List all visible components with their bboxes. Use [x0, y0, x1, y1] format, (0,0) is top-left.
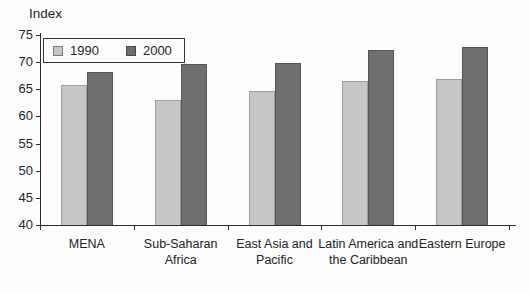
x-category-label: MENA: [35, 236, 139, 252]
y-tick-label-50: 50: [3, 164, 33, 178]
y-tick-label-60: 60: [3, 109, 33, 123]
x-tick-mark: [321, 226, 322, 230]
legend-swatch-2000: [126, 46, 136, 56]
legend-label-1990: 1990: [70, 43, 99, 58]
x-axis-line: [40, 225, 516, 226]
y-tick-mark: [36, 89, 40, 90]
y-tick-mark: [36, 35, 40, 36]
bar-1990-east-asia-and-pacific: [249, 91, 275, 225]
bar-2000-eastern-europe: [462, 47, 488, 225]
bar-2000-mena: [87, 72, 113, 225]
y-tick-label-75: 75: [3, 28, 33, 42]
y-tick-mark: [36, 144, 40, 145]
y-axis-line: [40, 33, 41, 225]
bar-2000-east-asia-and-pacific: [275, 63, 301, 225]
bar-2000-latin-america-and-the-caribbean: [368, 50, 394, 225]
plot-area: 1990 2000 4045505560657075MENASub-Sahara…: [0, 0, 529, 293]
x-category-label: Eastern Europe: [410, 236, 514, 252]
legend: 1990 2000: [43, 38, 185, 63]
y-tick-mark: [36, 198, 40, 199]
x-tick-mark: [509, 226, 510, 230]
x-tick-mark: [415, 226, 416, 230]
bar-chart-figure: Index 1990 2000 4045505560657075MENASub-…: [0, 0, 529, 293]
x-tick-mark: [228, 226, 229, 230]
y-tick-label-45: 45: [3, 191, 33, 205]
bar-1990-latin-america-and-the-caribbean: [342, 81, 368, 225]
x-tick-mark: [134, 226, 135, 230]
bar-1990-sub-saharan-africa: [155, 100, 181, 225]
bar-1990-mena: [61, 85, 87, 225]
y-tick-mark: [36, 171, 40, 172]
x-tick-mark: [40, 226, 41, 230]
y-tick-label-55: 55: [3, 137, 33, 151]
y-tick-label-70: 70: [3, 55, 33, 69]
y-tick-label-65: 65: [3, 82, 33, 96]
bar-1990-eastern-europe: [436, 79, 462, 225]
x-category-label: Sub-Saharan Africa: [129, 236, 233, 268]
y-tick-mark: [36, 116, 40, 117]
y-tick-mark: [36, 62, 40, 63]
legend-swatch-1990: [53, 46, 63, 56]
bar-2000-sub-saharan-africa: [181, 64, 207, 225]
x-category-label: East Asia and Pacific: [223, 236, 327, 268]
legend-label-2000: 2000: [143, 43, 172, 58]
x-category-label: Latin America and the Caribbean: [316, 236, 420, 268]
y-tick-label-40: 40: [3, 218, 33, 232]
